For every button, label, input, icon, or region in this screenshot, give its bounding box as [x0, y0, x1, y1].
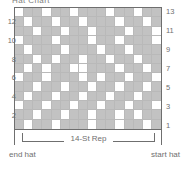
chart-cell: [97, 64, 106, 73]
chart-cell: [97, 101, 106, 110]
chart-cell: [24, 17, 33, 26]
chart-cell: [15, 101, 24, 110]
chart-cell: [152, 73, 161, 82]
chart-cell: [52, 8, 61, 17]
chart-cell: [33, 8, 42, 17]
row-number-right-11: 11: [166, 26, 182, 35]
chart-cell: [125, 82, 134, 91]
chart-cell: [33, 17, 42, 26]
chart-cell: [97, 92, 106, 101]
chart-cell: [115, 64, 124, 73]
chart-cell: [24, 36, 33, 45]
chart-cell: [33, 73, 42, 82]
chart-cell: [152, 110, 161, 119]
chart-cell: [70, 73, 79, 82]
chart-cell: [61, 82, 70, 91]
chart-cell: [24, 45, 33, 54]
chart-cell: [152, 8, 161, 17]
chart-cell: [79, 110, 88, 119]
chart-cell: [24, 27, 33, 36]
chart-cell: [106, 82, 115, 91]
chart-cell: [70, 92, 79, 101]
chart-cell: [106, 64, 115, 73]
chart-cell: [15, 110, 24, 119]
chart-cell: [15, 27, 24, 36]
chart-cell: [125, 101, 134, 110]
chart-cell: [52, 92, 61, 101]
chart-cell: [106, 17, 115, 26]
chart-cell: [70, 64, 79, 73]
chart-cell: [42, 64, 51, 73]
chart-cell: [33, 55, 42, 64]
row-number-left-4: 4: [2, 92, 16, 101]
chart-cell: [97, 27, 106, 36]
chart-cell: [115, 73, 124, 82]
chart-cell: [125, 17, 134, 26]
repeat-label: 14-St Rep: [42, 133, 135, 144]
chart-cell: [143, 36, 152, 45]
row-number-left-6: 6: [2, 73, 16, 82]
chart-cell: [106, 8, 115, 17]
chart-cell: [134, 110, 143, 119]
chart-cell: [42, 8, 51, 17]
chart-cell: [106, 110, 115, 119]
chart-cell: [125, 36, 134, 45]
chart-cell: [143, 92, 152, 101]
chart-cell: [143, 45, 152, 54]
chart-cell: [143, 17, 152, 26]
chart-cell: [61, 17, 70, 26]
chart-cell: [152, 64, 161, 73]
chart-cell: [33, 45, 42, 54]
chart-cell: [134, 27, 143, 36]
chart-cell: [143, 27, 152, 36]
chart-cell: [15, 8, 24, 17]
chart-cell: [15, 92, 24, 101]
chart-cell: [143, 73, 152, 82]
chart-cell: [134, 55, 143, 64]
row-number-right-7: 7: [166, 64, 182, 73]
chart-cell: [143, 110, 152, 119]
row-number-left-10: 10: [2, 36, 16, 45]
chart-title: Hat Chart: [12, 0, 50, 5]
chart-cell: [88, 45, 97, 54]
chart-cell: [61, 120, 70, 129]
chart-cell: [52, 82, 61, 91]
chart-cell: [106, 73, 115, 82]
chart-cell: [125, 64, 134, 73]
chart-cell: [52, 17, 61, 26]
chart-cell: [42, 73, 51, 82]
chart-grid-container: [14, 7, 162, 130]
chart-cell: [33, 120, 42, 129]
chart-cell: [88, 120, 97, 129]
chart-cell: [24, 120, 33, 129]
chart-cell: [88, 82, 97, 91]
chart-cell: [88, 92, 97, 101]
chart-cell: [134, 120, 143, 129]
chart-cell: [15, 64, 24, 73]
start-hat-tick: [161, 130, 162, 145]
chart-cell: [33, 64, 42, 73]
chart-cell: [70, 8, 79, 17]
chart-cell: [115, 101, 124, 110]
chart-cell: [33, 36, 42, 45]
chart-cell: [106, 45, 115, 54]
chart-cell: [125, 45, 134, 54]
chart-cell: [106, 92, 115, 101]
chart-cell: [61, 73, 70, 82]
chart-cell: [134, 8, 143, 17]
row-number-left-12: 12: [2, 17, 16, 26]
chart-cell: [88, 110, 97, 119]
chart-cell: [97, 55, 106, 64]
chart-cell: [33, 82, 42, 91]
chart-cell: [24, 92, 33, 101]
chart-cell: [115, 45, 124, 54]
chart-cell: [52, 110, 61, 119]
chart-cell: [134, 17, 143, 26]
chart-cell: [88, 73, 97, 82]
chart-cell: [97, 120, 106, 129]
chart-cell: [52, 45, 61, 54]
chart-cell: [115, 55, 124, 64]
chart-cell: [42, 27, 51, 36]
chart-cell: [70, 101, 79, 110]
chart-cell: [79, 101, 88, 110]
